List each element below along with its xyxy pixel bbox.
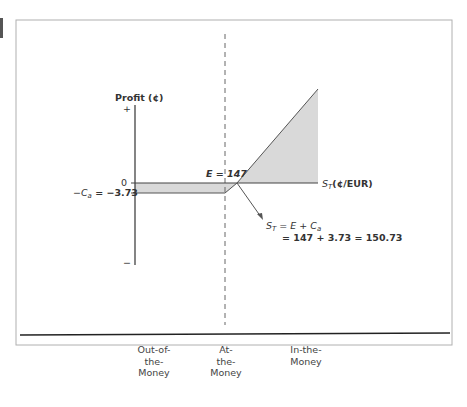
region-separator bbox=[20, 333, 450, 335]
y-plus-marker: + bbox=[123, 103, 131, 114]
region-in-the-money: In-the- Money bbox=[276, 344, 336, 367]
arrowhead-icon bbox=[257, 213, 263, 220]
breakeven-arrow bbox=[237, 183, 261, 217]
region-at-the-money: At- the- Money bbox=[196, 344, 256, 379]
premium-label: −Ca = −3.73 bbox=[73, 187, 138, 202]
breakeven-value: = 147 + 3.73 = 150.73 bbox=[282, 232, 402, 243]
x-axis-label: ST(¢/EUR) bbox=[322, 178, 373, 193]
y-axis-label: Profit (¢) bbox=[115, 92, 163, 103]
strike-label: E = 147 bbox=[206, 168, 247, 179]
y-minus-marker: − bbox=[123, 257, 131, 268]
region-out-of-the-money: Out-of- the- Money bbox=[124, 344, 184, 379]
